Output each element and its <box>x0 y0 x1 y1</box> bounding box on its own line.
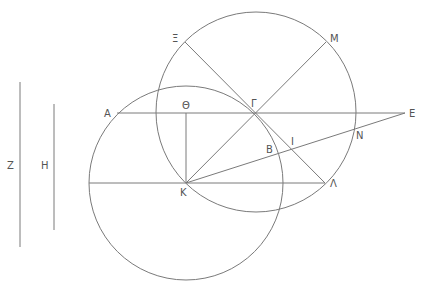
label-K: Κ <box>180 187 187 198</box>
label-Theta: Θ <box>182 100 190 111</box>
label-E: Ε <box>409 108 415 119</box>
label-M: Μ <box>330 33 339 44</box>
label-H: Η <box>41 160 49 171</box>
label-A: Α <box>104 108 111 119</box>
label-B: Β <box>266 144 273 155</box>
geometric-diagram: Ζ Η Α Θ Γ Ε Ξ Μ Ι Ν Β Κ Λ <box>0 0 423 291</box>
line-K-E <box>186 113 405 183</box>
label-Xi: Ξ <box>172 33 178 44</box>
label-I: Ι <box>291 136 294 147</box>
label-Z: Ζ <box>7 160 14 171</box>
label-Gamma: Γ <box>251 98 257 109</box>
label-N: Ν <box>356 130 363 141</box>
label-Lambda: Λ <box>330 178 337 189</box>
